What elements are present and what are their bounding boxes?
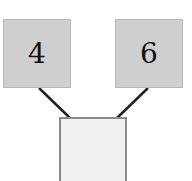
connector-right bbox=[117, 88, 148, 118]
part-value-left: 4 bbox=[28, 37, 46, 70]
part-box-left: 4 bbox=[3, 19, 71, 88]
connector-left bbox=[39, 88, 70, 118]
part-value-right: 6 bbox=[140, 37, 158, 70]
part-box-right: 6 bbox=[115, 19, 183, 88]
whole-box[interactable] bbox=[59, 117, 127, 181]
